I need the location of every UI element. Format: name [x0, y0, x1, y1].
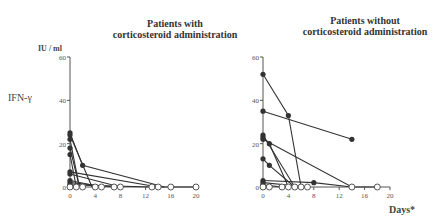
svg-text:0: 0	[256, 184, 260, 192]
svg-text:40: 40	[252, 97, 260, 105]
svg-text:8: 8	[312, 192, 316, 200]
data-point	[286, 113, 291, 118]
svg-text:40: 40	[59, 97, 67, 105]
series-line	[70, 133, 165, 187]
series-line	[263, 74, 301, 187]
svg-text:20: 20	[193, 192, 201, 200]
data-point	[311, 180, 316, 185]
svg-text:0: 0	[261, 192, 265, 200]
zero-point	[92, 184, 98, 190]
data-point	[260, 109, 265, 114]
svg-text:8: 8	[119, 192, 123, 200]
data-point	[260, 137, 265, 142]
zero-point	[285, 184, 291, 190]
data-point	[267, 141, 272, 146]
zero-point	[80, 184, 86, 190]
data-point	[67, 152, 72, 157]
svg-text:60: 60	[252, 54, 260, 62]
svg-text:20: 20	[252, 141, 260, 149]
zero-point	[149, 184, 155, 190]
zero-point	[73, 184, 79, 190]
svg-text:60: 60	[59, 54, 67, 62]
chart-without-corticosteroid: 0204060048121620	[252, 54, 394, 200]
zero-point	[266, 184, 272, 190]
zero-point	[349, 184, 355, 190]
svg-text:12: 12	[142, 192, 150, 200]
data-point	[349, 137, 354, 142]
svg-text:20: 20	[387, 192, 395, 200]
zero-point	[99, 184, 105, 190]
data-point	[260, 156, 265, 161]
zero-point	[117, 184, 123, 190]
svg-text:12: 12	[336, 192, 344, 200]
zero-point	[304, 184, 310, 190]
data-point	[267, 163, 272, 168]
zero-point	[292, 184, 298, 190]
zero-point	[168, 184, 174, 190]
data-point	[67, 137, 72, 142]
svg-text:0: 0	[63, 184, 67, 192]
data-point	[67, 171, 72, 176]
svg-text:20: 20	[59, 141, 67, 149]
svg-text:4: 4	[287, 192, 291, 200]
chart-canvas: 02040600481216200204060048121620	[0, 0, 435, 221]
svg-text:16: 16	[361, 192, 369, 200]
svg-text:16: 16	[167, 192, 175, 200]
data-point	[80, 163, 85, 168]
chart-with-corticosteroid: 0204060048121620	[59, 54, 200, 200]
svg-text:0: 0	[68, 192, 72, 200]
zero-point	[67, 184, 73, 190]
zero-point	[111, 184, 117, 190]
zero-point	[279, 184, 285, 190]
zero-point	[155, 184, 161, 190]
data-point	[260, 72, 265, 77]
series-line	[263, 111, 352, 139]
zero-point	[260, 184, 266, 190]
svg-text:4: 4	[93, 192, 97, 200]
data-point	[67, 145, 72, 150]
zero-point	[298, 184, 304, 190]
zero-point	[193, 184, 199, 190]
zero-point	[374, 184, 380, 190]
